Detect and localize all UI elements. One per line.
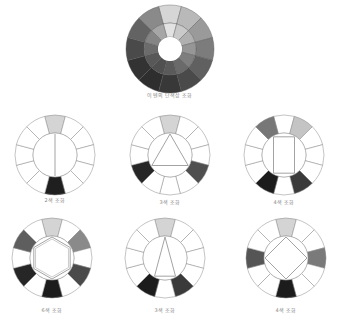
four-color-wheel-b [244,216,328,300]
monochrome-wheel-label: 이텐의 단색상 조화 [130,91,210,98]
six-color-wheel [10,216,94,300]
monochrome-wheel [125,4,215,94]
two-color-wheel-label: 2색 조화 [15,196,95,203]
four-color-wheel-b-label: 4색 조화 [246,306,326,313]
three-color-wheel-b-label: 3색 조화 [125,306,205,313]
three-color-wheel-b [123,216,207,300]
two-color-wheel [13,113,97,197]
color-harmony-diagram: 이텐의 단색상 조화 2색 조화 3색 조화 4색 조화 6색 조화 3색 조화… [0,0,339,324]
six-color-wheel-label: 6색 조화 [12,306,92,313]
three-color-wheel-a [128,113,212,197]
four-color-wheel-a [242,113,326,197]
four-color-wheel-a-label: 4색 조화 [244,198,324,205]
three-color-wheel-a-label: 3색 조화 [130,198,210,205]
